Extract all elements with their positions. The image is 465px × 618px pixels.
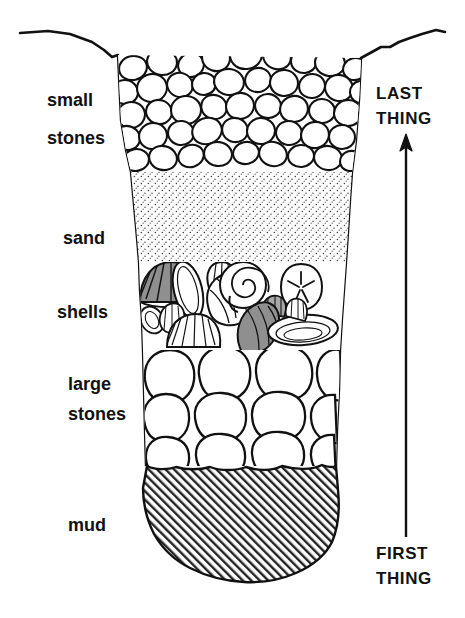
label-large-stones-line2: stones <box>68 404 126 424</box>
mud-body <box>143 465 339 582</box>
sediment-cross-section: small stones sand shells large stones mu… <box>0 0 465 618</box>
shell-ribbed-small-right <box>286 298 307 321</box>
layer-large-stones <box>110 345 370 478</box>
large-stone-shapes <box>144 346 341 478</box>
diagram-canvas: small stones sand shells large stones mu… <box>0 0 465 618</box>
label-small-stones-line2: stones <box>47 128 105 148</box>
ground-surface-line <box>20 30 445 58</box>
time-axis: LAST THING FIRST THING <box>376 84 432 588</box>
small-stone-shapes <box>110 39 373 173</box>
label-sand: sand <box>63 228 105 248</box>
label-first-thing-line2: THING <box>376 569 432 588</box>
label-mud: mud <box>68 515 106 535</box>
label-shells: shells <box>57 302 108 322</box>
layer-mud <box>143 465 339 582</box>
label-last-thing-line1: LAST <box>376 84 423 103</box>
label-last-thing-line2: THING <box>376 109 432 128</box>
layer-sand <box>110 168 370 268</box>
layer-small-stones <box>110 39 373 180</box>
label-large-stones-line1: large <box>68 374 111 394</box>
layer-shells <box>110 258 370 356</box>
layer-labels: small stones sand shells large stones mu… <box>47 90 126 535</box>
label-small-stones-line1: small <box>47 90 93 110</box>
label-first-thing-line1: FIRST <box>376 544 428 563</box>
time-arrow-up-icon <box>400 134 412 537</box>
